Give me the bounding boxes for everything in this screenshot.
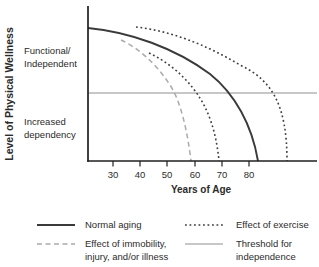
chart-legend: Normal aging Effect of exercise Effect o… bbox=[0, 209, 319, 267]
x-tick-30: 30 bbox=[108, 169, 119, 180]
y-region-upper-line2: Independent bbox=[24, 58, 77, 69]
exercise-curve bbox=[136, 27, 287, 161]
legend-item-effect-of-immobility: Effect of immobility, injury, and/or ill… bbox=[36, 238, 168, 263]
legend-item-effect-of-exercise: Effect of exercise bbox=[184, 219, 309, 232]
y-region-label-functional: Functional/ Independent bbox=[24, 45, 77, 69]
y-axis-title: Level of Physical Wellness bbox=[3, 27, 15, 161]
legend-label-threshold-line2: independence bbox=[236, 251, 296, 262]
legend-label-immobility-line2: injury, and/or illness bbox=[85, 251, 168, 262]
physical-wellness-aging-figure: Level of Physical Wellness Functional/ I… bbox=[0, 0, 319, 267]
x-tick-50: 50 bbox=[162, 169, 173, 180]
x-tick-40: 40 bbox=[135, 169, 146, 180]
solid-gray-line-icon bbox=[184, 239, 224, 249]
legend-item-normal-aging: Normal aging bbox=[36, 219, 142, 232]
x-tick-60: 60 bbox=[190, 169, 201, 180]
legend-label-normal-aging: Normal aging bbox=[85, 219, 142, 232]
dashed-gray-line-icon bbox=[36, 239, 76, 249]
y-region-label-dependency: Increased dependency bbox=[24, 116, 76, 140]
legend-item-threshold: Threshold for independence bbox=[184, 238, 296, 263]
y-region-lower-line1: Increased bbox=[24, 116, 66, 127]
wellness-vs-age-chart: Level of Physical Wellness Functional/ I… bbox=[0, 0, 319, 205]
immobility-curve bbox=[121, 40, 191, 161]
x-axis-title: Years of Age bbox=[171, 184, 232, 195]
exercise-after-immobility-curve bbox=[149, 53, 219, 161]
legend-label-threshold-line1: Threshold for bbox=[236, 238, 292, 249]
legend-label-effect-of-exercise: Effect of exercise bbox=[236, 219, 309, 232]
x-tick-80: 80 bbox=[244, 169, 255, 180]
normal-aging-curve bbox=[88, 28, 258, 161]
legend-label-effect-of-immobility: Effect of immobility, injury, and/or ill… bbox=[85, 238, 168, 263]
x-tick-70: 70 bbox=[217, 169, 228, 180]
y-region-lower-line2: dependency bbox=[24, 129, 76, 140]
y-region-upper-line1: Functional/ bbox=[24, 45, 71, 56]
dotted-dark-line-icon bbox=[184, 220, 224, 230]
legend-label-threshold: Threshold for independence bbox=[236, 238, 296, 263]
solid-dark-line-icon bbox=[36, 220, 76, 230]
legend-label-immobility-line1: Effect of immobility, bbox=[85, 238, 166, 249]
